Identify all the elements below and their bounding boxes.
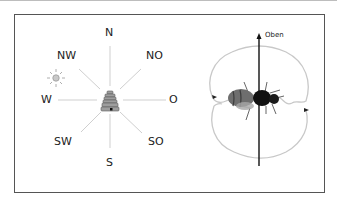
compass-label-o: O: [169, 94, 178, 105]
beehive-icon: [101, 91, 119, 111]
compass-label-so: SO: [148, 136, 164, 147]
up-axis-label: Oben: [265, 32, 284, 39]
sun-icon: [47, 69, 65, 87]
compass-label-w: W: [41, 94, 52, 105]
compass-label-s: S: [106, 157, 113, 168]
bee-icon: [228, 82, 284, 120]
compass-label-nw: NW: [57, 50, 76, 61]
compass-label-n: N: [105, 27, 113, 38]
compass-label-sw: SW: [54, 136, 72, 147]
compass-label-no: NO: [146, 50, 163, 61]
